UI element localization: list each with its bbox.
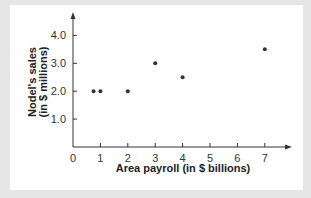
scatter-chart: 01234567 1.02.03.04.0 Area payroll (in $… [0,0,311,198]
data-points [92,47,267,93]
y-axis-arrow-icon [71,12,76,19]
x-tick-label: 0 [70,152,76,164]
axes [71,12,293,150]
data-point [263,47,267,51]
x-tick-label: 1 [97,152,103,164]
y-tick-label: 4.0 [51,29,66,41]
y-tick-label: 3.0 [51,57,66,69]
y-axis-title-line2: (in $ millions) [37,46,49,117]
x-ticks: 01234567 [70,143,268,164]
x-axis-arrow-icon [285,145,292,150]
x-tick-label: 7 [262,152,268,164]
y-tick-label: 1.0 [51,113,66,125]
data-point [92,89,96,93]
data-point [126,89,130,93]
data-point [181,75,185,79]
x-axis-title: Area payroll (in $ billions) [116,162,251,174]
y-tick-label: 2.0 [51,85,66,97]
data-point [153,61,157,65]
data-point [98,89,102,93]
